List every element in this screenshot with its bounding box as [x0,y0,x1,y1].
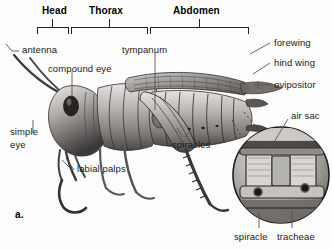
spiracle-opening [301,184,309,192]
region-label-thorax: Thorax [89,5,123,16]
region-brackets [37,19,248,34]
callout-hind-wing: hind wing [274,57,315,68]
callout-compound-eye: compound eye [48,63,112,74]
callout-air-sac: air sac [291,110,320,121]
callout-inset-tracheae: tracheae [277,231,315,242]
region-label-head: Head [42,5,67,16]
callout-ovipositor: ovipositor [274,79,316,90]
callout-labial-palps: labial palps [77,163,126,174]
callout-antenna: antenna [22,44,57,55]
callout-spiracles: spiracles [172,139,210,150]
callout-simple-eye-line2: eye [10,139,26,150]
callout-forewing: forewing [274,37,311,48]
callout-inset-spiracle: spiracle [234,231,268,242]
region-label-abdomen: Abdomen [173,5,220,16]
grasshopper-anatomy-figure: Head Thorax Abdomen antenna compound eye… [0,0,332,250]
callout-tympanum: tympanum [122,44,167,55]
panel-label: a. [15,209,24,220]
spiracle-opening [254,188,262,196]
callout-simple-eye-line1: simple [10,126,38,137]
